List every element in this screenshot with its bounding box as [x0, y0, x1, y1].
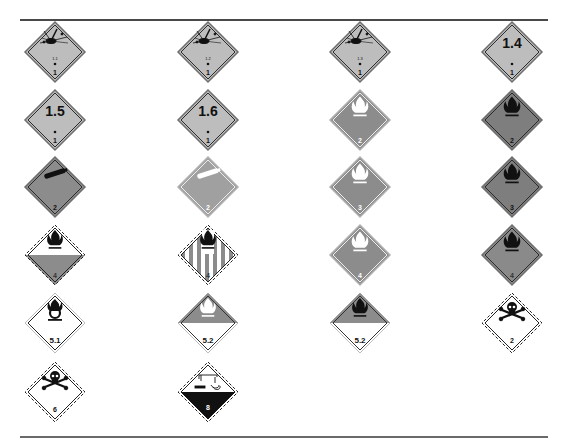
class-number: 2 — [53, 204, 57, 211]
hazard-label-4.2-black: 4 — [477, 220, 547, 290]
top-rule — [20, 19, 548, 21]
class-number: 3 — [510, 204, 514, 211]
hazard-diamond-icon: 4 — [325, 220, 395, 290]
hazard-label-1.5: 1.51 — [20, 85, 90, 155]
hazard-label-6.1: 6 — [20, 357, 90, 427]
class-number: 1 — [206, 69, 210, 76]
hazard-label-5.2-white: 5.2 — [173, 288, 243, 358]
hazard-label-2.3: 2 — [477, 288, 547, 358]
class-number: 1 — [358, 69, 362, 76]
hazard-diamond-icon: 4 — [477, 220, 547, 290]
hazard-diamond-icon: 2 — [325, 85, 395, 155]
hazard-label-5.1: 5.1 — [20, 288, 90, 358]
class-number: 1 — [206, 137, 210, 144]
class-number: 8 — [206, 404, 210, 411]
hazard-diamond-icon: 1.41 — [477, 17, 547, 87]
class-number: 4 — [53, 272, 57, 279]
class-number: 1 — [53, 69, 57, 76]
class-number: 5.1 — [49, 336, 61, 345]
hazard-label-4.2-white: 4 — [325, 220, 395, 290]
division-text: 1.2 — [205, 56, 211, 61]
hazard-label-2.1-white: 2 — [325, 85, 395, 155]
hazard-diamond-icon: 4 — [173, 220, 243, 290]
hazard-label-1.1: 1.11 — [20, 17, 90, 87]
class-number: 5.2 — [354, 336, 366, 345]
hazard-diamond-icon: 2 — [20, 152, 90, 222]
division-number: 1.4 — [502, 35, 522, 51]
class-number: 1 — [53, 137, 57, 144]
hazard-label-1.2: 1.21 — [173, 17, 243, 87]
hazard-label-1.6: 1.61 — [173, 85, 243, 155]
hazard-label-2.1-black: 2 — [477, 85, 547, 155]
hazard-label-8: 8 — [173, 357, 243, 427]
class-number: 2 — [358, 137, 362, 144]
division-text: 1.3 — [357, 56, 363, 61]
hazard-label-1.4: 1.41 — [477, 17, 547, 87]
hazard-label-3-black: 3 — [477, 152, 547, 222]
hazard-label-4.1: 4 — [173, 220, 243, 290]
hazard-label-2.2-black: 2 — [20, 152, 90, 222]
hazard-diamond-icon: 1.31 — [325, 17, 395, 87]
hazard-diamond-icon: 1.21 — [173, 17, 243, 87]
hazard-label-2.2-white: 2 — [173, 152, 243, 222]
hazard-diamond-icon: 2 — [173, 152, 243, 222]
class-number: 6 — [53, 406, 57, 413]
hazard-label-1.3: 1.31 — [325, 17, 395, 87]
hazard-diamond-icon: 5.1 — [20, 288, 90, 358]
hazard-diamond-icon: 3 — [477, 152, 547, 222]
hazard-diamond-icon: 6 — [20, 357, 90, 427]
class-number: 4 — [358, 272, 362, 279]
division-text: 1.1 — [52, 56, 58, 61]
class-number: 4 — [206, 272, 210, 279]
hazard-diamond-icon: 2 — [477, 288, 547, 358]
hazard-diamond-icon: 4 — [20, 220, 90, 290]
class-number: 2 — [510, 137, 514, 144]
hazard-diamond-icon: 8 — [173, 357, 243, 427]
hazard-diamond-icon: 1.51 — [20, 85, 90, 155]
hazard-diamond-icon: 3 — [325, 152, 395, 222]
hazard-diamond-icon: 5.2 — [173, 288, 243, 358]
division-number: 1.6 — [198, 103, 218, 119]
hazard-label-3-white: 3 — [325, 152, 395, 222]
class-number: 2 — [206, 204, 210, 211]
hazard-diamond-icon: 1.61 — [173, 85, 243, 155]
class-number: 2 — [510, 337, 514, 344]
division-number: 1.5 — [45, 103, 65, 119]
hazard-diamond-icon: 1.11 — [20, 17, 90, 87]
class-number: 4 — [510, 272, 514, 279]
class-number: 3 — [358, 204, 362, 211]
class-number: 1 — [510, 69, 514, 76]
hazard-label-5.2-black: 5.2 — [325, 288, 395, 358]
bottom-rule — [20, 436, 548, 438]
hazard-diamond-icon: 5.2 — [325, 288, 395, 358]
hazard-diamond-icon: 2 — [477, 85, 547, 155]
hazard-label-4.3: 4 — [20, 220, 90, 290]
class-number: 5.2 — [202, 336, 214, 345]
